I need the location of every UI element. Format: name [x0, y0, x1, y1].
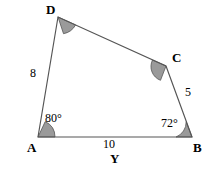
side-length-label-bc: 5	[185, 86, 191, 98]
vertex-label-c: C	[172, 51, 181, 64]
vertex-label-a: A	[27, 141, 36, 154]
side-length-label-ad: 8	[30, 67, 36, 79]
angle-measure-label-b: 72°	[161, 117, 178, 129]
vertex-label-d: D	[46, 3, 55, 16]
geometry-figure: D C B A 8 5 10 80° 72° Y	[0, 0, 212, 170]
side-length-label-ab: 10	[103, 138, 115, 150]
angle-measure-label-a: 80°	[45, 112, 62, 124]
figure-caption: Y	[110, 152, 119, 165]
vertex-label-b: B	[193, 141, 202, 154]
angle-marker-d	[58, 17, 76, 34]
